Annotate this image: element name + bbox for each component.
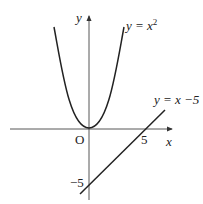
x-axis-label: x: [166, 135, 172, 148]
x-tick-5: 5: [141, 133, 148, 146]
line-label: y = x −5: [154, 93, 199, 106]
parabola-label-exponent: 2: [153, 17, 158, 27]
line-curve: [80, 110, 165, 194]
origin-label: O: [75, 133, 84, 146]
parabola-label: y = x2: [126, 18, 157, 32]
parabola-label-text: y = x: [126, 18, 153, 33]
y-tick-neg5: −5: [70, 176, 84, 189]
graph-figure: y x O 5 −5 y = x2 y = x −5: [0, 0, 203, 204]
y-axis-label: y: [76, 11, 82, 24]
